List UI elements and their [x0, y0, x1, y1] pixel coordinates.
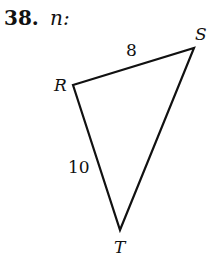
side-label-rs: 8 [126, 40, 137, 60]
side-label-rt: 10 [68, 157, 90, 177]
vertex-label-t: T [114, 237, 127, 257]
triangle-diagram: R S T 8 10 [0, 0, 214, 258]
vertex-label-s: S [195, 24, 207, 44]
triangle-rst [73, 48, 194, 230]
vertex-label-r: R [53, 75, 67, 95]
